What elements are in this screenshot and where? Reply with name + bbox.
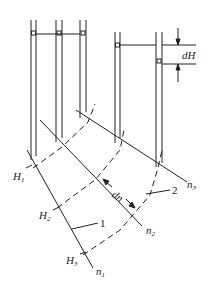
callout-2-label: 2 bbox=[172, 184, 178, 196]
label-n1: n1 bbox=[96, 265, 105, 279]
label-h2: H2 bbox=[38, 209, 51, 223]
label-dh: dH bbox=[182, 49, 197, 61]
label-dn: dn bbox=[110, 188, 126, 204]
piezometer-tube-5 bbox=[156, 32, 162, 167]
callout-1-label: 1 bbox=[100, 217, 106, 229]
label-n2: n2 bbox=[146, 224, 156, 238]
callout-1-leader bbox=[72, 223, 98, 229]
water-level-markers bbox=[32, 31, 162, 63]
flow-net-diagram: dH dn H1 H2 H3 n1 n2 n3 1 2 bbox=[0, 0, 212, 286]
label-n3: n3 bbox=[187, 178, 197, 192]
streamline-n1 bbox=[27, 150, 93, 268]
piezometer-tube-1 bbox=[31, 20, 36, 160]
streamline-n2 bbox=[40, 120, 142, 226]
piezometer-tube-4 bbox=[115, 32, 120, 143]
label-h1: H1 bbox=[12, 170, 24, 184]
label-h3: H3 bbox=[65, 254, 78, 268]
streamline-n3 bbox=[76, 110, 187, 182]
callout-2-leader bbox=[146, 190, 170, 194]
piezometer-tube-2 bbox=[56, 20, 62, 142]
